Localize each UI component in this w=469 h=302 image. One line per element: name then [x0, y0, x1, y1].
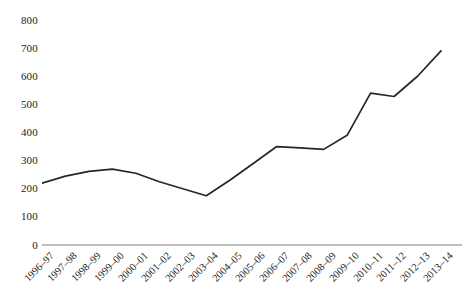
x-axis: 1996–971997–981998–991999–002000–012001–… — [0, 0, 469, 302]
line-chart: 0100200300400500600700800 1996–971997–98… — [0, 0, 469, 302]
